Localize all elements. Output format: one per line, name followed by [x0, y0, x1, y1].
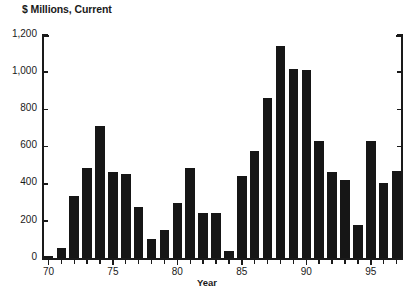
x-tick-label: 85 [236, 266, 247, 277]
x-axis-title: Year [0, 277, 414, 288]
x-tick-minor [280, 260, 281, 264]
bar [224, 251, 234, 258]
x-tick-minor [125, 260, 126, 264]
x-tick-major [48, 260, 50, 265]
bar [121, 174, 131, 259]
bar [250, 151, 260, 258]
bar [327, 172, 337, 259]
bar [379, 183, 389, 258]
x-tick-minor [383, 260, 384, 264]
x-tick-minor [99, 260, 100, 264]
y-tick-label: 800 [0, 102, 37, 113]
bar [353, 225, 363, 259]
bar-chart-figure: $ Millions, Current 02004006008001,0001,… [0, 0, 414, 294]
x-tick-label: 75 [107, 266, 118, 277]
x-tick-minor [202, 260, 203, 264]
x-axis-ticks: 707580859095 [42, 260, 403, 266]
x-tick-minor [267, 260, 268, 264]
bar [237, 176, 247, 259]
bar [69, 196, 79, 258]
bar [366, 141, 376, 258]
x-tick-minor [396, 260, 397, 264]
bar [392, 171, 402, 258]
x-tick-minor [151, 260, 152, 264]
y-tick-label: 600 [0, 139, 37, 150]
bar [44, 256, 54, 259]
y-tick-label: 400 [0, 176, 37, 187]
x-tick-minor [86, 260, 87, 264]
bar [302, 70, 312, 258]
y-tick-label: 1,000 [0, 65, 37, 76]
x-tick-label: 95 [365, 266, 376, 277]
bar [314, 141, 324, 258]
bar [211, 213, 221, 259]
x-tick-label: 70 [43, 266, 54, 277]
bar [173, 203, 183, 259]
x-tick-minor [61, 260, 62, 264]
x-tick-minor [228, 260, 229, 264]
x-tick-minor [344, 260, 345, 264]
x-tick-minor [318, 260, 319, 264]
bar [82, 168, 92, 258]
x-tick-minor [215, 260, 216, 264]
bar [57, 248, 67, 258]
y-tick-label: 0 [0, 251, 37, 262]
x-tick-minor [164, 260, 165, 264]
bar [340, 180, 350, 258]
y-tick-label: 200 [0, 214, 37, 225]
bar [147, 239, 157, 259]
x-tick-major [177, 260, 179, 265]
x-tick-minor [74, 260, 75, 264]
x-tick-major [370, 260, 372, 265]
bar [160, 230, 170, 258]
bar [198, 213, 208, 259]
y-axis-title: $ Millions, Current [22, 3, 112, 15]
plot-area: 02004006008001,0001,200 707580859095 [42, 35, 403, 260]
bar [276, 46, 286, 258]
x-tick-minor [190, 260, 191, 264]
x-tick-minor [357, 260, 358, 264]
x-tick-major [241, 260, 243, 265]
y-tick-label: 1,200 [0, 28, 37, 39]
x-tick-minor [254, 260, 255, 264]
bars-layer [42, 35, 403, 258]
bar [289, 69, 299, 259]
bar [263, 98, 273, 258]
x-tick-minor [138, 260, 139, 264]
x-tick-label: 80 [172, 266, 183, 277]
x-tick-label: 90 [301, 266, 312, 277]
bar [108, 172, 118, 259]
x-tick-major [306, 260, 308, 265]
bar [134, 207, 144, 258]
x-tick-major [112, 260, 114, 265]
bar [95, 126, 105, 258]
bar [185, 168, 195, 258]
x-tick-minor [293, 260, 294, 264]
x-tick-minor [331, 260, 332, 264]
